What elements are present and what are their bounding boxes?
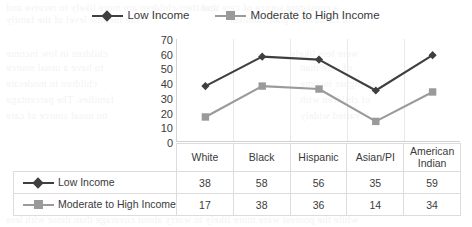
y-tick-label: 60 bbox=[161, 49, 173, 60]
square-marker-icon bbox=[372, 118, 379, 125]
line-chart-svg bbox=[177, 39, 461, 142]
y-tick-label: 20 bbox=[161, 108, 173, 119]
cell-moderate-asian-pi: 14 bbox=[347, 194, 404, 216]
table-row: Moderate to High Income 17 38 36 14 34 bbox=[14, 194, 461, 216]
y-tick-label: 10 bbox=[161, 123, 173, 134]
y-tick-label: 50 bbox=[161, 64, 173, 75]
chart-data-table: White Black Hispanic Asian/PI American I… bbox=[13, 143, 460, 213]
diamond-marker-icon bbox=[258, 53, 266, 61]
plot-area bbox=[176, 39, 460, 142]
square-marker-icon bbox=[259, 82, 266, 89]
diamond-marker-icon bbox=[315, 56, 323, 64]
cell-moderate-black: 38 bbox=[233, 194, 290, 216]
diamond-marker-icon bbox=[201, 82, 209, 90]
legend-label-moderate-to-high-income: Moderate to High Income bbox=[250, 10, 379, 22]
cell-low-income-asian-pi: 35 bbox=[347, 172, 404, 194]
square-marker-icon bbox=[226, 11, 235, 20]
table-row: Low Income 38 58 56 35 59 bbox=[14, 172, 461, 194]
row-label-moderate-to-high-income: Moderate to High Income bbox=[58, 199, 176, 210]
square-marker-icon bbox=[34, 200, 43, 209]
diamond-marker-icon bbox=[32, 177, 43, 188]
legend-item-low-income: Low Income bbox=[92, 10, 189, 22]
table-corner-cell bbox=[14, 144, 177, 172]
column-header-black: Black bbox=[233, 144, 290, 172]
y-tick-label: 70 bbox=[161, 35, 173, 46]
cell-moderate-american-indian: 34 bbox=[404, 194, 461, 216]
column-header-white: White bbox=[177, 144, 234, 172]
cell-moderate-white: 17 bbox=[177, 194, 234, 216]
legend-key-low-income bbox=[92, 10, 123, 21]
column-header-asian-pi: Asian/PI bbox=[347, 144, 404, 172]
y-axis-ticks: 70 60 50 40 30 20 10 0 bbox=[140, 34, 173, 142]
column-header-american-indian: American Indian bbox=[404, 144, 461, 172]
row-header-low-income: Low Income bbox=[14, 172, 177, 194]
legend-key-moderate-to-high-income-table bbox=[23, 199, 54, 210]
y-tick-label: 30 bbox=[161, 93, 173, 104]
diamond-marker-icon bbox=[102, 10, 113, 21]
row-header-moderate-to-high-income: Moderate to High Income bbox=[14, 194, 177, 216]
cell-low-income-hispanic: 56 bbox=[290, 172, 347, 194]
cell-low-income-american-indian: 59 bbox=[404, 172, 461, 194]
chart-plot-block: 70 60 50 40 30 20 10 0 bbox=[0, 34, 472, 144]
legend-item-moderate-to-high-income: Moderate to High Income bbox=[215, 10, 379, 22]
row-label-low-income: Low Income bbox=[58, 177, 115, 188]
square-marker-icon bbox=[315, 85, 322, 92]
chart-legend: Low Income Moderate to High Income bbox=[0, 10, 472, 22]
y-tick-label: 40 bbox=[161, 79, 173, 90]
legend-key-moderate-to-high-income bbox=[215, 10, 246, 21]
cell-low-income-white: 38 bbox=[177, 172, 234, 194]
legend-key-low-income-table bbox=[23, 177, 54, 188]
cell-low-income-black: 58 bbox=[233, 172, 290, 194]
square-marker-icon bbox=[202, 113, 209, 120]
column-header-hispanic: Hispanic bbox=[290, 144, 347, 172]
legend-label-low-income: Low Income bbox=[127, 10, 189, 22]
table-header-row: White Black Hispanic Asian/PI American I… bbox=[14, 144, 461, 172]
square-marker-icon bbox=[429, 88, 436, 95]
cell-moderate-hispanic: 36 bbox=[290, 194, 347, 216]
